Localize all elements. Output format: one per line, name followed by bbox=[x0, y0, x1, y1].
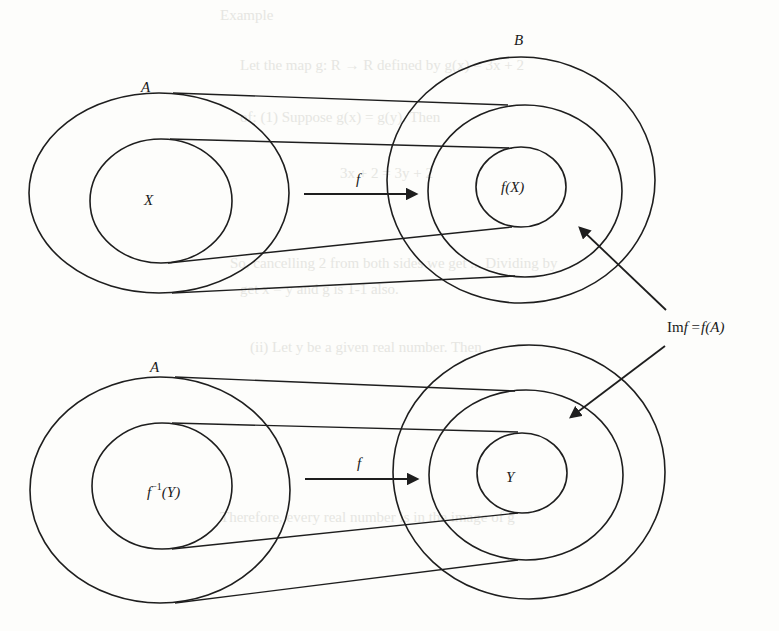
ghost-line-1: Example bbox=[220, 7, 274, 23]
set-B-label: B bbox=[514, 32, 523, 48]
ghost-line-7: (ii) Let y be a given real number. Then bbox=[250, 339, 482, 356]
subset-X-ellipse bbox=[90, 139, 232, 263]
subset-X-label: X bbox=[143, 192, 154, 208]
connector-line bbox=[175, 560, 518, 603]
bleed-through-text: Example Let the map g: R → R defined by … bbox=[220, 7, 558, 525]
connector-line bbox=[175, 377, 515, 391]
image-f-A-ellipse bbox=[428, 105, 622, 277]
set-A-label: A bbox=[149, 359, 160, 375]
connector-line bbox=[173, 93, 508, 105]
ghost-line-2: Let the map g: R → R defined by g(x) = 3… bbox=[240, 57, 524, 74]
ghost-line-8: Therefore, every real number is in the i… bbox=[220, 509, 515, 525]
preimage-label: f−1(Y) bbox=[147, 481, 180, 501]
image-annotation: Imf =f(A) bbox=[571, 228, 724, 417]
map-f-label: f bbox=[357, 455, 363, 471]
ghost-line-5: So, cancelling 2 from both sides we get … bbox=[230, 255, 558, 271]
set-A-label: A bbox=[140, 79, 151, 95]
image-f-X-label: f(X) bbox=[501, 179, 524, 196]
connector-line bbox=[172, 423, 518, 432]
connector-line bbox=[170, 139, 512, 148]
subset-Y-ellipse bbox=[477, 433, 567, 513]
image-f-A-ellipse bbox=[429, 390, 623, 560]
subset-Y-label: Y bbox=[506, 469, 516, 485]
bottom-mapping: A f−1(Y) Y f bbox=[30, 345, 665, 603]
set-mapping-diagram: Example Let the map g: R → R defined by … bbox=[0, 0, 779, 631]
codomain-ellipse bbox=[393, 345, 665, 599]
image-annotation-label: Imf =f(A) bbox=[667, 319, 724, 336]
pointer-arrow-up-icon bbox=[580, 228, 666, 310]
